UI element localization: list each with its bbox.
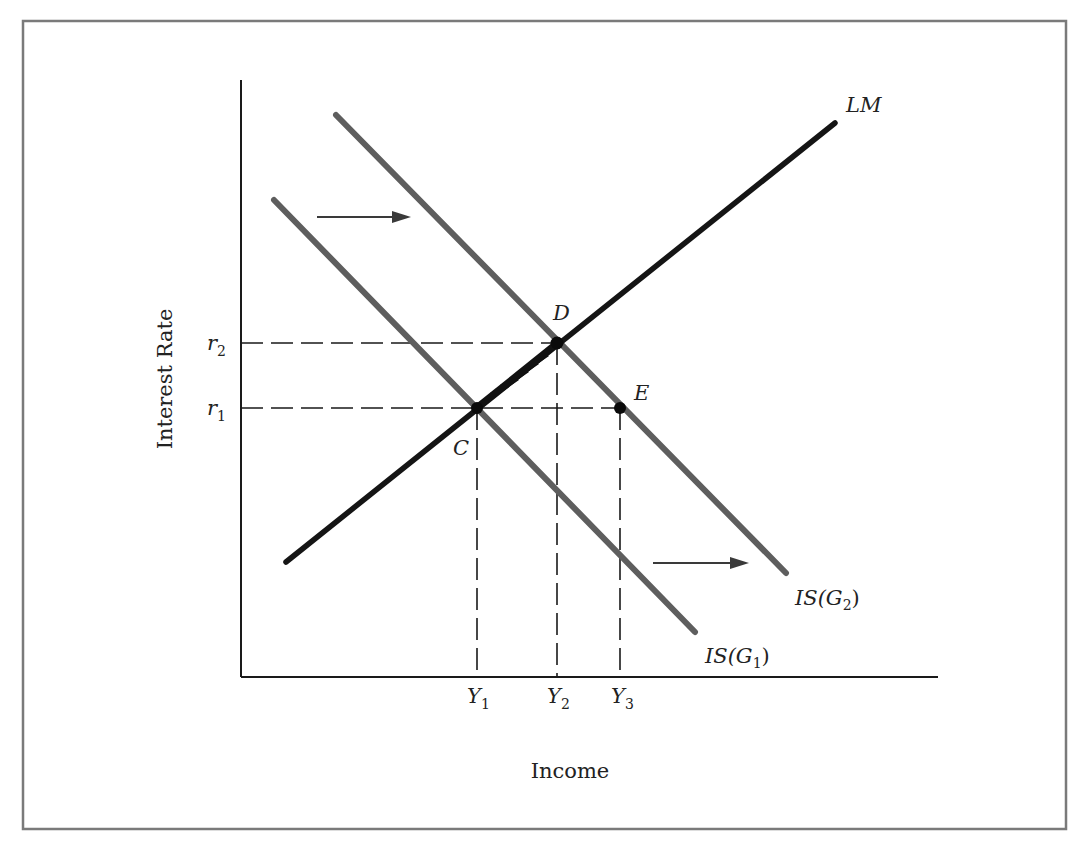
arrowhead-icon [392, 211, 411, 223]
tick-y1: Y1 [467, 684, 490, 712]
point-d [551, 337, 564, 350]
point-c [471, 402, 483, 414]
tick-y3: Y3 [611, 684, 634, 712]
is-g1-label: IS(G1) [704, 644, 770, 671]
shift-arrow-upper [317, 211, 411, 223]
guide-lines [241, 343, 620, 677]
point-c-label: C [453, 436, 469, 460]
tick-y2: Y2 [547, 684, 570, 712]
shift-arrow-lower [653, 557, 749, 569]
adjustment-path-arrows [479, 345, 556, 406]
x-axis-title: Income [531, 759, 610, 783]
figure-frame [23, 21, 1066, 829]
is-g2-label: IS(G2) [794, 586, 860, 613]
arrowhead-icon [730, 557, 749, 569]
tick-r2: r2 [207, 331, 226, 359]
point-d-label: D [552, 301, 570, 325]
lm-label: LM [845, 93, 882, 117]
point-e [614, 402, 626, 414]
y-axis-title: Interest Rate [153, 309, 177, 450]
tick-r1: r1 [207, 396, 226, 424]
is-lm-diagram: C D E LM IS(G1) IS(G2) r2 r1 Y1 Y2 Y3 In… [0, 0, 1080, 844]
point-e-label: E [633, 381, 649, 405]
